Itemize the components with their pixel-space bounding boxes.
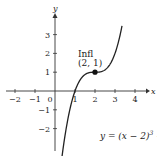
- axis-ticks: −2−112340321−1−2: [9, 31, 137, 134]
- equation-prefix: y = (x − 2): [99, 131, 150, 141]
- inflection-point-marker: [92, 70, 97, 75]
- x-tick-label: −2: [9, 95, 21, 104]
- y-tick-label: 2: [45, 49, 50, 58]
- origin-label: 0: [47, 95, 52, 104]
- inflection-coords-label: (2, 1): [78, 58, 102, 68]
- x-axis-arrow-icon: [146, 89, 150, 94]
- axes: xy: [6, 4, 156, 151]
- inflection-point-chart: xy −2−112340321−1−2 Infl (2, 1) y = (x −…: [0, 0, 157, 156]
- y-tick-label: −1: [38, 106, 50, 115]
- equation-label: y = (x − 2)3 + 1: [99, 129, 157, 141]
- y-axis-arrow-icon: [53, 13, 58, 18]
- x-tick-label: 4: [132, 95, 137, 104]
- x-axis-label: x: [151, 87, 156, 96]
- x-tick-label: 2: [92, 95, 97, 104]
- equation-suffix: + 1: [153, 131, 157, 141]
- y-tick-label: −2: [38, 125, 50, 134]
- y-tick-label: 3: [45, 31, 50, 40]
- x-tick-label: −1: [29, 95, 41, 104]
- y-tick-label: 1: [45, 68, 50, 77]
- y-axis-label: y: [52, 4, 58, 13]
- x-tick-label: 3: [112, 95, 117, 104]
